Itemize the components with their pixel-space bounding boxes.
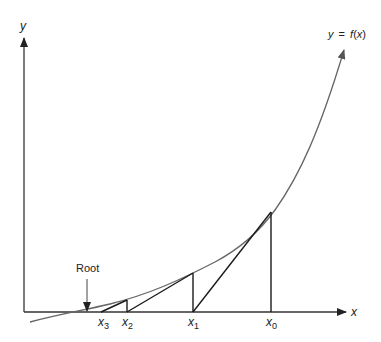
root-label: Root	[76, 262, 99, 274]
point-label-x3: x3	[97, 315, 109, 331]
tangent-x2	[101, 300, 127, 312]
function-curve	[30, 50, 344, 322]
point-label-x0: x0	[265, 315, 277, 331]
diagram-svg: y x y = f(x) Root x0 x1 x2 x3	[0, 0, 381, 342]
tangent-x1	[127, 273, 193, 312]
tangent-x0	[193, 212, 271, 312]
y-axis-label: y	[19, 19, 27, 33]
curve-label: y = f(x)	[327, 28, 366, 40]
x-axis-label: x	[350, 305, 358, 319]
newton-method-diagram: y x y = f(x) Root x0 x1 x2 x3	[0, 0, 381, 342]
point-label-x1: x1	[187, 315, 199, 331]
point-label-x2: x2	[121, 315, 133, 331]
